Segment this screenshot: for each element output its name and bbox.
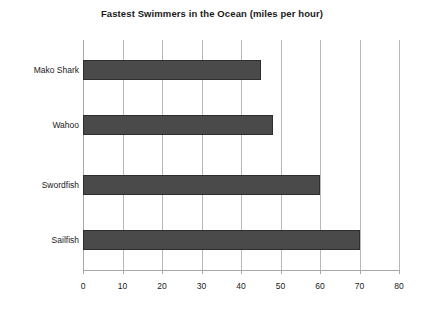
category-label-2: Swordfish xyxy=(0,180,79,190)
category-axis-labels: Mako Shark Wahoo Swordfish Sailfish xyxy=(0,0,79,312)
xtick-label-50: 50 xyxy=(261,281,301,292)
xtick-label-0: 0 xyxy=(63,281,103,292)
xtick-label-80: 80 xyxy=(379,281,419,292)
category-label-1: Wahoo xyxy=(0,120,79,130)
gridline-80 xyxy=(399,40,400,270)
xtick-label-40: 40 xyxy=(221,281,261,292)
xtick-label-60: 60 xyxy=(300,281,340,292)
x-axis-line xyxy=(83,270,400,271)
gridline-70 xyxy=(360,40,361,270)
bar-1 xyxy=(83,115,273,135)
xtick-label-70: 70 xyxy=(340,281,380,292)
plot-area xyxy=(83,40,399,270)
bar-3 xyxy=(83,230,360,250)
category-label-0: Mako Shark xyxy=(0,65,79,75)
bar-chart: Fastest Swimmers in the Ocean (miles per… xyxy=(0,0,424,312)
xtick-label-20: 20 xyxy=(142,281,182,292)
bar-0 xyxy=(83,60,261,80)
category-label-3: Sailfish xyxy=(0,235,79,245)
xtick-label-10: 10 xyxy=(103,281,143,292)
xtick-label-30: 30 xyxy=(182,281,222,292)
bar-2 xyxy=(83,175,320,195)
